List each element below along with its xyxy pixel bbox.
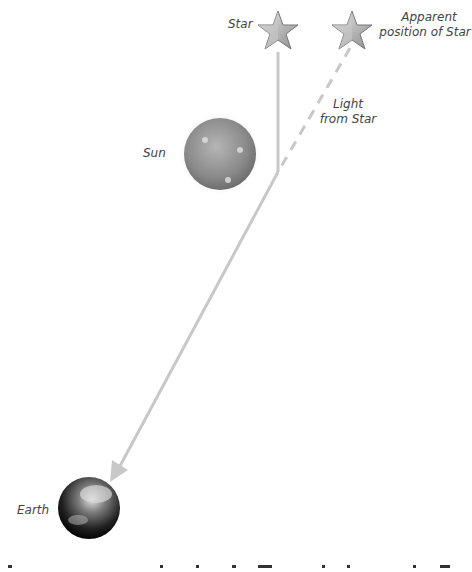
earth-label: Earth bbox=[17, 503, 49, 518]
apparent-star-icon bbox=[332, 11, 372, 49]
cropped-caption-fragment bbox=[0, 563, 472, 572]
apparent-label-line1: Apparent bbox=[386, 10, 472, 25]
apparent-label-line2: position of Star bbox=[378, 25, 472, 40]
bent-ray bbox=[120, 172, 278, 466]
earth-image bbox=[58, 477, 120, 539]
star-icon bbox=[258, 11, 298, 49]
light-label-line2: from Star bbox=[318, 112, 378, 127]
light-label-line1: Light bbox=[318, 97, 378, 112]
star-label: Star bbox=[228, 17, 253, 32]
diagram-canvas bbox=[0, 0, 472, 572]
arrowhead bbox=[110, 460, 128, 482]
light-from-star-label: Light from Star bbox=[318, 97, 378, 127]
sun-label: Sun bbox=[143, 146, 166, 161]
apparent-position-label: Apparent position of Star bbox=[386, 10, 472, 40]
sun-image bbox=[178, 112, 262, 196]
